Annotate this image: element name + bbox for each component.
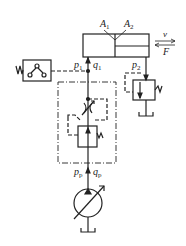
label-a1: A1 (100, 19, 110, 31)
label-p1: p1 (74, 60, 83, 72)
label-force: F (163, 47, 169, 57)
hydraulic-circuit-diagram (0, 0, 186, 246)
return-line-relief-valve (125, 57, 162, 116)
label-p2: p2 (132, 60, 141, 72)
label-qp: qp (93, 167, 102, 179)
main-supply-line (86, 57, 90, 190)
label-q1: q1 (93, 60, 102, 72)
flow-control-valve (58, 82, 116, 163)
label-a2: A2 (124, 19, 134, 31)
label-pp: pp (74, 167, 83, 179)
variable-displacement-pump (74, 186, 104, 232)
hydraulic-cylinder (83, 30, 149, 57)
label-velocity: v (163, 30, 167, 39)
